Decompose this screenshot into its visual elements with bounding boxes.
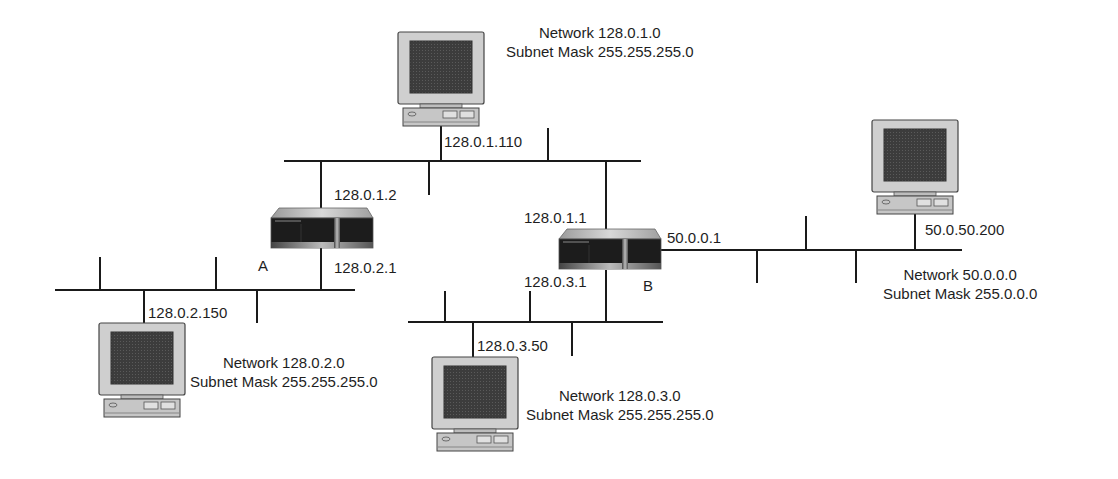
router-icon-b[interactable] [559, 229, 661, 269]
network-address: Network 128.0.3.0 [526, 386, 714, 405]
router-a-name: A [258, 257, 268, 275]
router-a-interface-1: 128.0.1.2 [334, 186, 397, 204]
router-b-interface-3: 50.0.0.1 [667, 229, 721, 247]
network-label-128-0-1: Network 128.0.1.0 Subnet Mask 255.255.25… [506, 23, 694, 61]
subnet-mask: Subnet Mask 255.0.0.0 [883, 284, 1037, 303]
router-b-name: B [643, 277, 653, 295]
router-b-interface-1: 128.0.1.1 [524, 209, 587, 227]
subnet-mask: Subnet Mask 255.255.255.0 [506, 42, 694, 61]
computer-icon-left[interactable] [99, 323, 185, 417]
subnet-mask: Subnet Mask 255.255.255.0 [526, 405, 714, 424]
computer-icon-top[interactable] [398, 32, 484, 126]
host-ip-right: 50.0.50.200 [925, 221, 1004, 239]
router-icon-a[interactable] [271, 208, 373, 248]
host-ip-left: 128.0.2.150 [148, 304, 227, 322]
host-ip-top: 128.0.1.110 [444, 133, 522, 151]
network-address: Network 128.0.1.0 [506, 23, 694, 42]
computer-icon-bottom[interactable] [432, 357, 518, 451]
computer-icon-right[interactable] [872, 120, 958, 214]
network-label-50: Network 50.0.0.0 Subnet Mask 255.0.0.0 [883, 265, 1037, 303]
network-label-128-0-2: Network 128.0.2.0 Subnet Mask 255.255.25… [190, 353, 378, 391]
network-address: Network 128.0.2.0 [190, 353, 378, 372]
host-ip-bottom: 128.0.3.50 [477, 337, 548, 355]
network-address: Network 50.0.0.0 [883, 265, 1037, 284]
router-b-interface-2: 128.0.3.1 [524, 273, 587, 291]
network-label-128-0-3: Network 128.0.3.0 Subnet Mask 255.255.25… [526, 386, 714, 424]
subnet-mask: Subnet Mask 255.255.255.0 [190, 372, 378, 391]
router-a-interface-2: 128.0.2.1 [334, 259, 397, 277]
